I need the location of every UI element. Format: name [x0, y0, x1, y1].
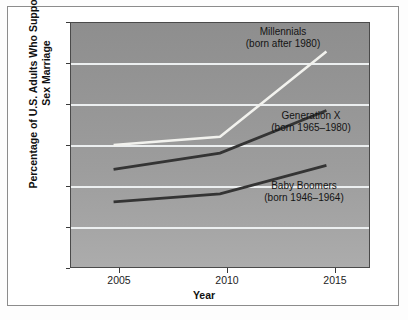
annotation-baby-boomers-born: (born 1946–1964) [248, 192, 360, 204]
x-tick-mark-2015 [335, 268, 336, 273]
annotation-generation-x: Generation X (born 1965–1980) [255, 110, 367, 134]
x-tick-label-2015: 2015 [305, 274, 365, 286]
annotation-millennials-name: Millennials [223, 26, 343, 38]
series-lines [71, 23, 369, 267]
chart-figure: Percentage of U.S. Adults Who Support Sa… [0, 0, 408, 320]
y-axis-label: Percentage of U.S. Adults Who Support Sa… [27, 0, 53, 193]
annotation-millennials: Millennials (born after 1980) [223, 26, 343, 50]
plot-area [70, 22, 370, 268]
annotation-baby-boomers: Baby Boomers (born 1946–1964) [248, 180, 360, 204]
annotation-generation-x-name: Generation X [255, 110, 367, 122]
x-tick-mark-2010 [227, 268, 228, 273]
annotation-millennials-born: (born after 1980) [223, 38, 343, 50]
x-axis-label: Year [0, 289, 408, 301]
x-tick-label-2005: 2005 [89, 274, 149, 286]
x-tick-label-2010: 2010 [197, 274, 257, 286]
x-tick-mark-2005 [119, 268, 120, 273]
annotation-generation-x-born: (born 1965–1980) [255, 122, 367, 134]
annotation-baby-boomers-name: Baby Boomers [248, 180, 360, 192]
